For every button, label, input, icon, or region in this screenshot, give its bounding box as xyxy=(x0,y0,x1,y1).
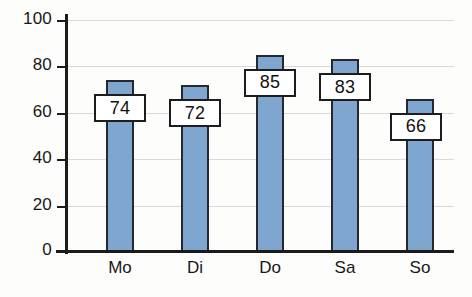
value-label-mo-text: 74 xyxy=(110,98,131,119)
y-tick-20 xyxy=(57,206,68,208)
x-category-label-di: Di xyxy=(165,258,225,278)
x-category-label-mo: Mo xyxy=(90,258,150,278)
y-tick-label-40: 40 xyxy=(6,148,52,168)
y-tick-100 xyxy=(57,20,68,22)
x-axis-line xyxy=(56,250,454,253)
y-tick-80 xyxy=(57,66,68,68)
bar-chart: 74 72 85 83 66 100 80 60 40 20 0 xyxy=(0,0,472,297)
value-label-so-text: 66 xyxy=(406,116,427,137)
x-category-label-so: So xyxy=(390,258,450,278)
y-tick-label-100: 100 xyxy=(6,9,52,29)
plot-area: 74 72 85 83 66 xyxy=(68,20,454,252)
value-label-mo: 74 xyxy=(94,94,146,122)
value-label-sa-text: 83 xyxy=(335,77,356,98)
x-category-label-sa: Sa xyxy=(315,258,375,278)
y-tick-40 xyxy=(57,159,68,161)
y-tick-label-0: 0 xyxy=(6,240,52,260)
value-label-di: 72 xyxy=(169,99,221,127)
value-label-sa: 83 xyxy=(319,73,371,101)
value-label-do: 85 xyxy=(244,69,296,97)
y-tick-label-80: 80 xyxy=(6,55,52,75)
y-tick-60 xyxy=(57,113,68,115)
y-tick-0 xyxy=(57,251,68,253)
value-label-so: 66 xyxy=(390,113,442,141)
y-tick-label-20: 20 xyxy=(6,195,52,215)
y-axis-line xyxy=(65,14,68,254)
value-label-do-text: 85 xyxy=(260,72,281,93)
value-label-di-text: 72 xyxy=(185,103,206,124)
gridline-100 xyxy=(68,20,454,21)
x-category-label-do: Do xyxy=(240,258,300,278)
y-tick-label-60: 60 xyxy=(6,102,52,122)
